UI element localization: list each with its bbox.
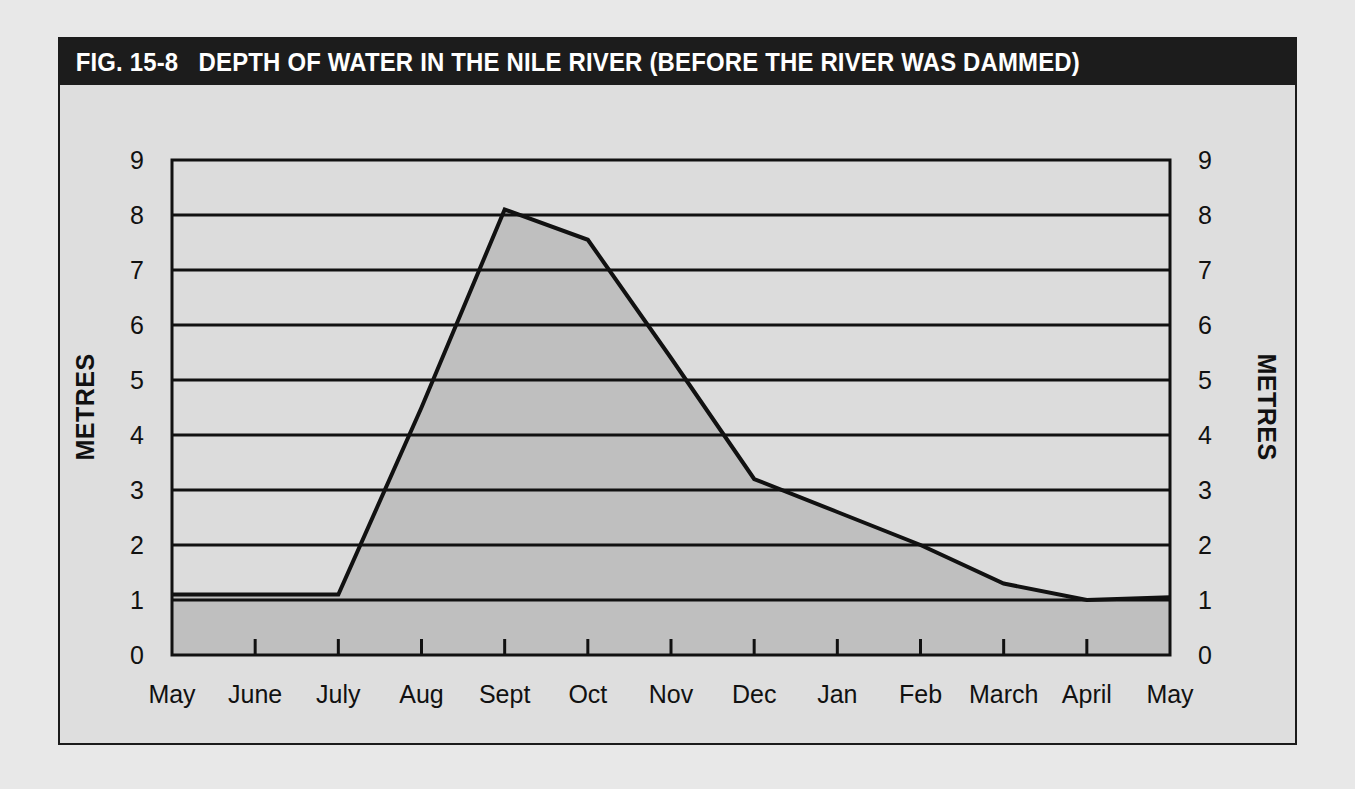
chart-body: 0123456789 0123456789 MayJuneJulyAugSept…: [60, 85, 1295, 743]
x-axis-tick-label: Nov: [649, 680, 694, 708]
y-axis-right-tick-label: 0: [1198, 641, 1212, 669]
y-axis-right-title: METRES: [1253, 353, 1281, 460]
y-axis-left-tick-label: 9: [130, 146, 144, 174]
x-axis-tick-label: July: [316, 680, 361, 708]
y-axis-right-tick-label: 5: [1198, 366, 1212, 394]
y-axis-left-tick-label: 2: [130, 531, 144, 559]
x-axis-tick-label: Aug: [399, 680, 443, 708]
y-axis-right-tick-label: 7: [1198, 256, 1212, 284]
y-axis-right-tick-label: 3: [1198, 476, 1212, 504]
y-axis-right-tick-label: 2: [1198, 531, 1212, 559]
figure-number-label: FIG. 15-8: [76, 47, 179, 77]
figure-card: FIG. 15-8DEPTH OF WATER IN THE NILE RIVE…: [58, 37, 1297, 745]
x-axis-tick-label: April: [1062, 680, 1112, 708]
y-axis-right-tick-label: 6: [1198, 311, 1212, 339]
y-axis-right-tick-label: 8: [1198, 201, 1212, 229]
y-axis-left-tick-label: 8: [130, 201, 144, 229]
y-axis-left-tick-label: 0: [130, 641, 144, 669]
x-axis-tick-label: Dec: [732, 680, 776, 708]
x-axis-labels: MayJuneJulyAugSeptOctNovDecJanFebMarchAp…: [148, 680, 1194, 708]
figure-title: DEPTH OF WATER IN THE NILE RIVER (BEFORE…: [199, 47, 1080, 77]
y-axis-left-tick-label: 1: [130, 586, 144, 614]
x-axis-tick-label: June: [228, 680, 282, 708]
y-axis-left-tick-label: 7: [130, 256, 144, 284]
x-axis-tick-label: Oct: [568, 680, 607, 708]
area-chart: 0123456789 0123456789 MayJuneJulyAugSept…: [60, 85, 1295, 743]
figure-root: FIG. 15-8DEPTH OF WATER IN THE NILE RIVE…: [0, 0, 1355, 789]
y-axis-left-tick-label: 5: [130, 366, 144, 394]
y-axis-left-title: METRES: [71, 353, 99, 460]
x-axis-tick-label: May: [148, 680, 196, 708]
y-axis-left-tick-label: 4: [130, 421, 144, 449]
y-axis-left-tick-label: 3: [130, 476, 144, 504]
y-axis-right-tick-label: 4: [1198, 421, 1212, 449]
figure-title-text: FIG. 15-8DEPTH OF WATER IN THE NILE RIVE…: [60, 47, 1080, 78]
y-axis-right-tick-label: 1: [1198, 586, 1212, 614]
figure-title-bar: FIG. 15-8DEPTH OF WATER IN THE NILE RIVE…: [60, 39, 1295, 85]
x-axis-tick-label: Feb: [899, 680, 942, 708]
x-axis-tick-label: Sept: [479, 680, 530, 708]
y-axis-left-tick-label: 6: [130, 311, 144, 339]
x-axis-tick-label: May: [1146, 680, 1194, 708]
y-axis-right-tick-label: 9: [1198, 146, 1212, 174]
y-axis-right-labels: 0123456789: [1198, 146, 1212, 669]
x-axis-tick-label: Jan: [817, 680, 857, 708]
x-axis-tick-label: March: [969, 680, 1038, 708]
y-axis-left-labels: 0123456789: [130, 146, 144, 669]
